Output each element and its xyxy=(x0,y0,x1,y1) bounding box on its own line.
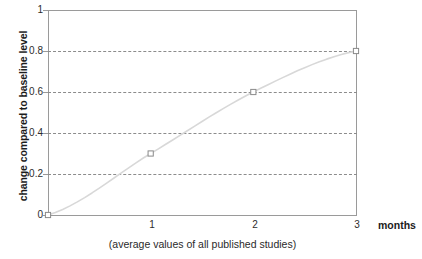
x-tick-label: 2 xyxy=(245,219,265,230)
series-line xyxy=(48,51,356,215)
plot-area xyxy=(48,10,357,216)
data-point-marker xyxy=(148,151,153,156)
data-series-layer xyxy=(48,10,357,216)
data-point-marker xyxy=(45,212,50,217)
x-tick-label: 3 xyxy=(347,219,367,230)
x-tick-label: 1 xyxy=(142,219,162,230)
x-axis-unit-label: months xyxy=(378,219,416,231)
data-point-marker xyxy=(251,89,256,94)
data-point-marker xyxy=(353,48,358,53)
chart-figure: change compared to baseline level 1 0.8 … xyxy=(0,0,422,259)
chart-caption: (average values of all published studies… xyxy=(48,238,357,250)
